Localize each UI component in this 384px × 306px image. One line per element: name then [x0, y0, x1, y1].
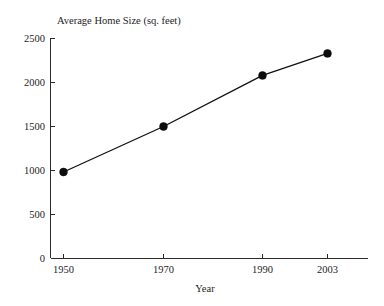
x-axis-title: Year: [195, 283, 215, 294]
y-tick-label-500: 500: [29, 209, 45, 220]
x-tick-label-1950: 1950: [53, 264, 74, 275]
data-point-1970[interactable]: [160, 123, 168, 131]
y-tick-label-0: 0: [40, 253, 45, 264]
line-chart: Average Home Size (sq. feet) 0 500 1000 …: [0, 0, 384, 306]
data-point-2003[interactable]: [324, 50, 332, 58]
chart-background: [0, 0, 384, 306]
y-tick-label-1500: 1500: [24, 121, 45, 132]
data-point-1950[interactable]: [60, 168, 68, 176]
chart-title: Average Home Size (sq. feet): [57, 15, 181, 27]
data-point-1990[interactable]: [259, 72, 267, 80]
y-tick-label-2000: 2000: [24, 77, 45, 88]
x-tick-label-1990: 1990: [252, 264, 273, 275]
y-tick-label-1000: 1000: [24, 165, 45, 176]
x-tick-label-2003: 2003: [317, 264, 338, 275]
chart-canvas: Average Home Size (sq. feet) 0 500 1000 …: [0, 0, 384, 306]
x-tick-label-1970: 1970: [153, 264, 174, 275]
y-tick-label-2500: 2500: [24, 33, 45, 44]
